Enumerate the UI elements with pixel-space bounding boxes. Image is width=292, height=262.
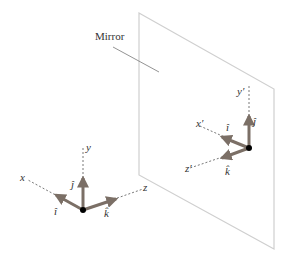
z-axis-label: z	[142, 181, 148, 193]
z-prime-axis-label: z′	[184, 162, 192, 174]
y-axis-label: y	[85, 141, 91, 153]
i-hat-label: î	[54, 205, 58, 217]
mirror-plane	[139, 13, 274, 249]
k-hat-label: k̂	[104, 207, 110, 219]
x-prime-axis-label: x′	[195, 117, 204, 129]
i-hat-arrow	[56, 195, 83, 210]
mirror-label: Mirror	[95, 30, 125, 42]
origin-prime-point	[246, 145, 252, 151]
object-frame: y x z ĵ î k̂	[19, 141, 148, 219]
mirror-reflection-diagram: Mirror y x z ĵ î k̂	[0, 0, 292, 262]
x-axis-label: x	[19, 171, 25, 183]
origin-point	[80, 207, 86, 213]
j-hat-label: ĵ	[69, 178, 75, 190]
y-prime-axis-label: y′	[236, 85, 245, 97]
k-hat-arrow	[83, 199, 116, 210]
